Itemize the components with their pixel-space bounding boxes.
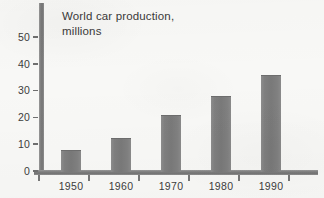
- plot-area: 01020304050 19501960197019801990 World c…: [0, 0, 324, 198]
- x-axis-tick-mark: [38, 175, 40, 181]
- bar: [161, 115, 181, 172]
- bar: [111, 138, 131, 172]
- y-axis-tick-label: 40: [18, 59, 30, 70]
- y-axis-tick: 10: [0, 138, 38, 150]
- x-axis-tick-label: 1960: [96, 181, 146, 192]
- y-axis-tick-label: 0: [24, 166, 30, 177]
- y-axis-tick-label: 30: [18, 85, 30, 96]
- y-axis-tick: 20: [0, 111, 38, 123]
- bar: [61, 150, 81, 172]
- bar: [261, 75, 281, 172]
- y-axis-tick-mark: [33, 117, 38, 119]
- y-axis-tick-mark: [33, 63, 38, 65]
- y-axis-tick-label: 50: [18, 32, 30, 43]
- y-axis-tick-mark: [33, 143, 38, 145]
- y-axis-tick: 0: [0, 165, 38, 177]
- y-axis-tick: 40: [0, 58, 38, 70]
- y-axis-tick-mark: [33, 170, 38, 172]
- x-axis-tick-label: 1990: [246, 181, 296, 192]
- bar: [211, 96, 231, 172]
- y-axis-line: [39, 3, 44, 173]
- x-axis-tick-label: 1970: [146, 181, 196, 192]
- y-axis-tick: 30: [0, 85, 38, 97]
- x-axis-tick-label: 1950: [46, 181, 96, 192]
- y-axis-tick-mark: [33, 36, 38, 38]
- x-axis-tick-label: 1980: [196, 181, 246, 192]
- y-axis-tick-label: 10: [18, 139, 30, 150]
- bar-chart-figure: 01020304050 19501960197019801990 World c…: [0, 0, 324, 198]
- y-axis-tick: 50: [0, 31, 38, 43]
- y-axis-tick-mark: [33, 90, 38, 92]
- y-axis-tick-label: 20: [18, 112, 30, 123]
- chart-title: World car production, millions: [62, 9, 174, 39]
